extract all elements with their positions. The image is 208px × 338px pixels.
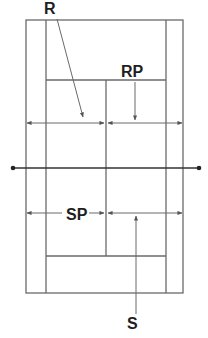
court-lines	[26, 20, 183, 293]
label-server-partner: SP	[64, 207, 89, 223]
label-server: S	[127, 316, 138, 332]
net-post-right	[197, 166, 202, 171]
court-diagram	[0, 0, 208, 338]
label-receiver-partner: RP	[121, 64, 143, 80]
receiver-pointer	[57, 19, 83, 117]
label-receiver: R	[44, 1, 56, 17]
doubles-boundary	[26, 20, 183, 293]
net-post-left	[11, 166, 16, 171]
